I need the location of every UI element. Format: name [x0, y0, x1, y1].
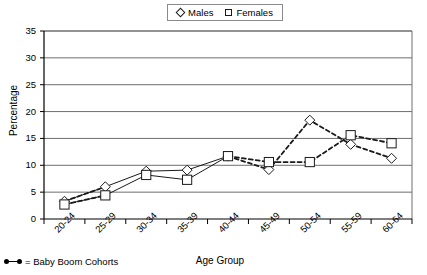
data-point-marker-females — [387, 139, 396, 148]
data-point-marker-females — [60, 200, 69, 209]
gridlines — [44, 31, 412, 192]
data-point-marker-females — [264, 157, 273, 166]
data-point-marker-females — [305, 157, 314, 166]
baby-boom-symbol-icon — [4, 259, 22, 264]
chart-root: Males Females 05101520253035 20-2425-293… — [0, 0, 427, 275]
y-tick-label: 10 — [14, 159, 36, 170]
data-point-marker-females — [223, 152, 232, 161]
data-point-markers — [59, 115, 396, 209]
data-point-marker-females — [101, 191, 110, 200]
data-point-marker-females — [183, 175, 192, 184]
series-lines — [64, 156, 228, 204]
series-line-females — [64, 156, 228, 204]
baby-boom-line-females — [64, 195, 105, 204]
data-point-marker-females — [142, 170, 151, 179]
x-axis-title: Age Group — [160, 255, 280, 266]
y-tick-label: 30 — [14, 52, 36, 63]
y-tick-label: 35 — [14, 25, 36, 36]
plot-frame — [44, 31, 412, 219]
data-point-marker-males — [182, 165, 192, 175]
y-tick-label: 0 — [14, 213, 36, 224]
plot-area: 05101520253035 20-2425-2930-3435-3940-44… — [0, 0, 427, 275]
data-point-marker-males — [387, 153, 397, 163]
chart-canvas — [0, 0, 427, 275]
data-point-marker-males — [346, 139, 356, 149]
y-tick-label: 5 — [14, 186, 36, 197]
baby-boom-footnote: = Baby Boom Cohorts — [4, 256, 118, 267]
y-axis-title: Percentage — [8, 71, 19, 151]
data-point-marker-females — [346, 131, 355, 140]
footnote-text: = Baby Boom Cohorts — [25, 256, 118, 267]
